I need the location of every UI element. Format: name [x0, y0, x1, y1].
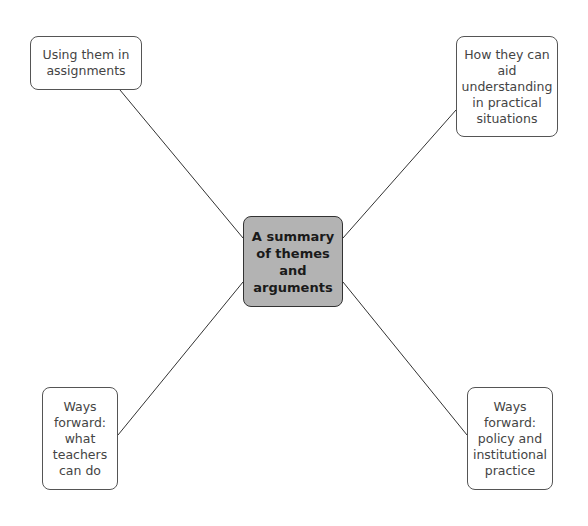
connector-top-left — [120, 90, 243, 238]
connector-bottom-left — [118, 282, 243, 435]
branch-top-left: Using them in assignments — [30, 36, 142, 90]
branch-label: How they can aid understanding in practi… — [461, 47, 553, 127]
branch-bottom-left: Ways forward: what teachers can do — [42, 387, 118, 490]
center-node: A summary of themes and arguments — [243, 216, 343, 307]
branch-label: Using them in assignments — [35, 47, 137, 79]
branch-label: Ways forward: policy and institutional p… — [472, 399, 548, 479]
center-label: A summary of themes and arguments — [248, 228, 338, 296]
branch-label: Ways forward: what teachers can do — [47, 399, 113, 479]
connector-bottom-right — [343, 282, 467, 435]
branch-bottom-right: Ways forward: policy and institutional p… — [467, 387, 553, 490]
branch-top-right: How they can aid understanding in practi… — [456, 36, 558, 137]
connector-top-right — [343, 110, 456, 238]
